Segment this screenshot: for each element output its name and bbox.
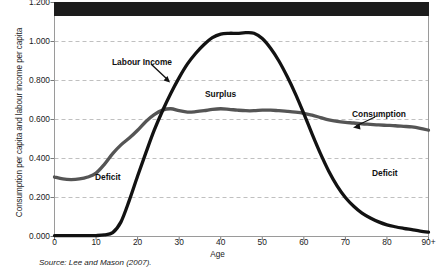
x-tick-label-5: 50 xyxy=(258,238,267,246)
x-tick-label-3: 30 xyxy=(174,238,183,246)
surplus-label: Surplus xyxy=(205,89,236,99)
deficit-right-label: Deficit xyxy=(372,168,398,178)
annotation-arrows xyxy=(151,64,375,130)
source-note: Source: Lee and Mason (2007). xyxy=(39,258,152,267)
consumption-label: Consumption xyxy=(352,109,406,119)
x-tick-label-2: 20 xyxy=(133,238,142,246)
series-line-labour-income xyxy=(55,33,429,236)
x-tick-label-6: 60 xyxy=(299,238,308,246)
x-tick-label-1: 10 xyxy=(91,238,100,246)
gridlines xyxy=(51,3,429,241)
x-tick-label-9: 90+ xyxy=(421,238,435,246)
title-band xyxy=(54,2,429,16)
x-tick-label-8: 80 xyxy=(382,238,391,246)
series-lines xyxy=(55,33,429,236)
labour-income-label: Labour Income xyxy=(112,57,172,67)
x-tick-label-7: 70 xyxy=(341,238,350,246)
deficit-left-label: Deficit xyxy=(95,172,121,182)
x-tick-label-4: 40 xyxy=(216,238,225,246)
x-tick-label-0: 0 xyxy=(52,238,57,246)
